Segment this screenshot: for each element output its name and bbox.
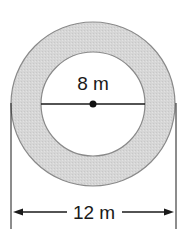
arrow-right-icon: [164, 209, 174, 216]
inner-diameter-label: 8 m: [77, 73, 109, 94]
outer-diameter-label: 12 m: [73, 202, 115, 223]
arrow-left-icon: [13, 209, 23, 216]
annulus-diagram: 8 m 12 m: [0, 0, 192, 235]
center-point: [90, 101, 97, 108]
